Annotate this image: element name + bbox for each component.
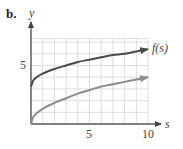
y-tick-5: 5 bbox=[20, 58, 26, 72]
axes bbox=[31, 22, 161, 124]
x-axis-label: s bbox=[165, 117, 170, 131]
series-label-f: f(s) bbox=[152, 41, 168, 55]
part-label: b. bbox=[6, 6, 16, 21]
chart: b. y s 5 10 5 f(s) bbox=[0, 0, 183, 149]
y-axis-label: y bbox=[28, 6, 35, 20]
x-tick-10: 10 bbox=[142, 127, 154, 141]
x-tick-5: 5 bbox=[86, 127, 92, 141]
